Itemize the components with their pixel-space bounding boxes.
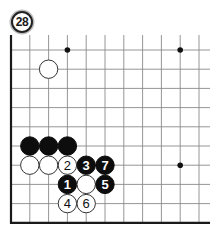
go-board: 2371546 bbox=[0, 0, 218, 239]
move-number-label: 5 bbox=[101, 177, 108, 192]
stone-circle bbox=[21, 156, 39, 174]
black-stone bbox=[39, 137, 57, 155]
stone-circle bbox=[39, 156, 57, 174]
stone-circle bbox=[39, 137, 57, 155]
black-stone bbox=[58, 137, 76, 155]
stone-circle bbox=[58, 137, 76, 155]
star-point-icon bbox=[65, 47, 71, 53]
stone-circle bbox=[39, 60, 57, 78]
move-number-label: 2 bbox=[64, 158, 71, 173]
move-number-label: 7 bbox=[101, 158, 108, 173]
stone-circle bbox=[21, 137, 39, 155]
black-stone bbox=[21, 137, 39, 155]
black-stone: 5 bbox=[96, 175, 114, 193]
move-number-label: 4 bbox=[64, 196, 71, 211]
star-point-icon bbox=[177, 162, 183, 168]
white-stone bbox=[39, 156, 57, 174]
white-stone: 2 bbox=[58, 156, 76, 174]
white-stone bbox=[21, 156, 39, 174]
move-number-label: 3 bbox=[83, 158, 90, 173]
black-stone: 1 bbox=[58, 175, 76, 193]
board-grid bbox=[10, 35, 210, 224]
black-stone: 3 bbox=[77, 156, 95, 174]
black-stone: 7 bbox=[96, 156, 114, 174]
white-stone: 6 bbox=[77, 194, 95, 212]
white-stone: 4 bbox=[58, 194, 76, 212]
stone-circle bbox=[77, 175, 95, 193]
move-number-label: 6 bbox=[83, 196, 90, 211]
star-point-icon bbox=[177, 47, 183, 53]
white-stone bbox=[77, 175, 95, 193]
white-stone bbox=[39, 60, 57, 78]
move-number-label: 1 bbox=[64, 177, 71, 192]
